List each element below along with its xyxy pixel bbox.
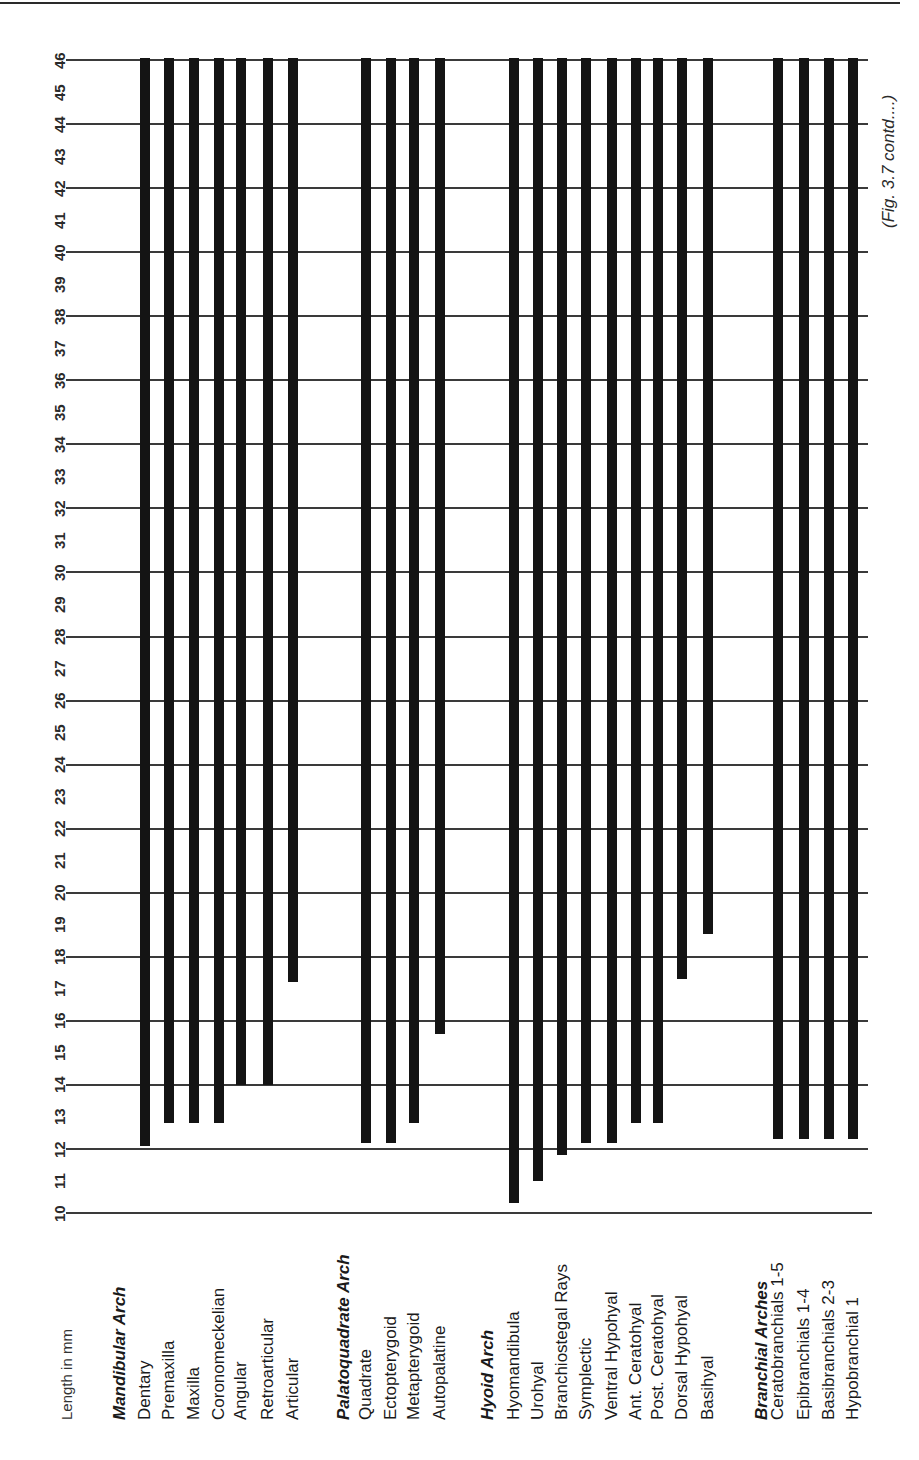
category-label: Urohyal — [529, 1361, 547, 1420]
bar-dentary — [140, 58, 150, 1146]
gridline-12 — [66, 1148, 868, 1150]
y-tick-label: 21 — [52, 853, 68, 870]
y-tick-label: 35 — [52, 404, 68, 421]
bar-symplectic — [581, 58, 591, 1143]
category-label: Basibranchials 2-3 — [820, 1280, 838, 1420]
gridline-34 — [66, 443, 868, 445]
y-tick-label: 28 — [52, 628, 68, 645]
bar-ectopterygoid — [386, 58, 396, 1143]
gridline-42 — [66, 187, 868, 189]
category-label: Basihyal — [699, 1356, 717, 1420]
category-label: Premaxilla — [160, 1341, 178, 1420]
figure-continuation-note: (Fig. 3.7 contd....) — [880, 95, 898, 228]
y-tick-label: 25 — [52, 724, 68, 741]
y-tick-label: 22 — [52, 821, 68, 838]
category-label: Maxilla — [185, 1367, 203, 1420]
category-label: Quadrate — [357, 1349, 375, 1420]
bar-ant-ceratohyal — [631, 58, 641, 1123]
gridline-38 — [66, 315, 868, 317]
y-tick-label: 13 — [52, 1109, 68, 1126]
y-tick-label: 24 — [52, 756, 68, 773]
category-label: Ventral Hypohyal — [603, 1291, 621, 1420]
gridline-30 — [66, 571, 868, 573]
y-tick-label: 39 — [52, 276, 68, 293]
y-tick-label: 18 — [52, 949, 68, 966]
category-label: Ant. Ceratohyal — [627, 1303, 645, 1420]
category-label: Symplectic — [577, 1338, 595, 1420]
category-label: Ceratobranchials 1-5 — [769, 1262, 787, 1420]
y-tick-label: 33 — [52, 468, 68, 485]
bar-autopalatine — [435, 58, 445, 1034]
y-tick-label: 38 — [52, 308, 68, 325]
bar-coronomeckelian — [214, 58, 224, 1123]
y-tick-label: 27 — [52, 660, 68, 677]
y-tick-label: 19 — [52, 917, 68, 934]
y-tick-label: 23 — [52, 789, 68, 806]
category-label: Hypobranchial 1 — [844, 1297, 862, 1420]
gridline-22 — [66, 828, 868, 830]
y-tick-label: 16 — [52, 1013, 68, 1030]
y-tick-label: 42 — [52, 180, 68, 197]
bar-urohyal — [533, 58, 543, 1181]
bar-metapterygoid — [409, 58, 419, 1123]
bar-post-ceratohyal — [653, 58, 663, 1123]
y-tick-label: 14 — [52, 1077, 68, 1094]
y-tick-label: 37 — [52, 340, 68, 357]
bar-branchiostegal-rays — [557, 58, 567, 1155]
category-label: Hyomandibula — [505, 1311, 523, 1420]
bar-ceratobranchials-1-5 — [773, 58, 783, 1139]
gridline-16 — [66, 1020, 868, 1022]
gridline-24 — [66, 764, 868, 766]
y-tick-label: 15 — [52, 1045, 68, 1062]
group-label: Palatoquadrate Arch — [335, 1254, 353, 1420]
y-tick-label: 46 — [52, 52, 68, 69]
group-label: Hyoid Arch — [479, 1330, 497, 1420]
category-label: Articular — [284, 1358, 302, 1420]
bar-angular — [236, 58, 246, 1085]
gridline-14 — [66, 1084, 868, 1086]
bar-retroarticular — [263, 58, 273, 1085]
y-tick-label: 31 — [52, 532, 68, 549]
gridline-40 — [66, 251, 868, 253]
bar-dorsal-hypohyal — [677, 58, 687, 979]
y-axis-label: Length in mm — [58, 1329, 76, 1420]
category-label: Angular — [232, 1361, 250, 1420]
y-tick-label: 17 — [52, 981, 68, 998]
y-tick-label: 43 — [52, 148, 68, 165]
category-label: Branchiostegal Rays — [553, 1264, 571, 1420]
category-label: Autopalatine — [431, 1325, 449, 1420]
category-label: Metapterygoid — [405, 1312, 423, 1420]
y-tick-label: 45 — [52, 84, 68, 101]
y-tick-label: 11 — [52, 1173, 68, 1189]
bar-hyomandibula — [509, 58, 519, 1203]
y-tick-label: 10 — [52, 1205, 68, 1222]
gridline-26 — [66, 700, 868, 702]
bar-maxilla — [189, 58, 199, 1123]
y-tick-label: 36 — [52, 372, 68, 389]
bar-quadrate — [361, 58, 371, 1143]
category-label: Dorsal Hypohyal — [673, 1295, 691, 1420]
group-label: Mandibular Arch — [111, 1287, 129, 1421]
y-tick-label: 40 — [52, 244, 68, 261]
bar-ventral-hypohyal — [607, 58, 617, 1143]
top-rule — [0, 2, 900, 4]
y-tick-label: 20 — [52, 885, 68, 902]
category-label: Post. Ceratohyal — [649, 1294, 667, 1420]
bar-premaxilla — [164, 58, 174, 1123]
category-label: Dentary — [136, 1360, 154, 1420]
y-tick-label: 26 — [52, 692, 68, 709]
y-tick-label: 29 — [52, 596, 68, 613]
category-label: Retroarticular — [259, 1318, 277, 1420]
gridline-28 — [66, 636, 868, 638]
y-tick-label: 34 — [52, 436, 68, 453]
bar-basihyal — [703, 58, 713, 934]
gridline-36 — [66, 379, 868, 381]
y-tick-label: 12 — [52, 1141, 68, 1158]
category-label: Epibranchials 1-4 — [795, 1289, 813, 1420]
bar-hypobranchial-1 — [848, 58, 858, 1139]
category-label: Coronomeckelian — [210, 1288, 228, 1420]
bar-epibranchials-1-4 — [799, 58, 809, 1139]
y-tick-label: 44 — [52, 116, 68, 133]
category-label: Ectopterygoid — [382, 1316, 400, 1420]
gridline-20 — [66, 892, 868, 894]
